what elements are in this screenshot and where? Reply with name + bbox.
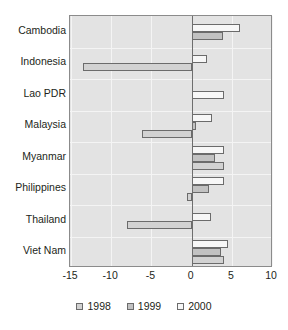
legend-swatch-icon — [76, 303, 83, 310]
gridline-x-neg15 — [71, 16, 72, 266]
legend-item-1998[interactable]: 1998 — [76, 300, 110, 312]
legend-label: 1998 — [87, 300, 110, 312]
bar — [192, 55, 207, 63]
legend-item-2000[interactable]: 2000 — [177, 300, 211, 312]
bar — [192, 177, 224, 185]
bar — [192, 114, 213, 122]
y-axis-label-malaysia: Malaysia — [0, 119, 66, 130]
bar — [192, 154, 215, 162]
legend-item-1999[interactable]: 1999 — [127, 300, 161, 312]
legend-swatch-icon — [177, 303, 184, 310]
x-axis-tick-label: -10 — [103, 269, 118, 282]
bar — [192, 213, 211, 221]
bar — [192, 185, 210, 193]
y-axis-label-cambodia: Cambodia — [0, 25, 66, 36]
y-axis-label-philippines: Philippines — [0, 182, 66, 193]
x-axis-tick-label: 5 — [228, 269, 234, 282]
category-separator — [70, 142, 271, 143]
chart-legend: 199819992000 — [0, 300, 288, 312]
y-axis-label-thailand: Thailand — [0, 214, 66, 225]
category-separator — [70, 48, 271, 49]
category-separator — [70, 174, 271, 175]
bar — [192, 24, 240, 32]
bar — [192, 91, 224, 99]
gridline-x-neg10 — [111, 16, 112, 266]
category-separator — [70, 205, 271, 206]
gridline-x-10 — [272, 16, 273, 266]
x-axis-labels: -15-10-50510 — [0, 269, 288, 285]
bar — [83, 63, 192, 71]
bar — [127, 221, 191, 229]
y-axis-label-indonesia: Indonesia — [0, 56, 66, 67]
category-separator — [70, 237, 271, 238]
bar — [192, 32, 223, 40]
bar — [192, 256, 224, 264]
legend-label: 2000 — [188, 300, 211, 312]
bar — [142, 130, 192, 138]
y-axis-labels: CambodiaIndonesiaLao PDRMalaysiaMyanmarP… — [0, 15, 66, 267]
bar — [192, 146, 224, 154]
bar — [192, 162, 224, 170]
y-axis-label-viet-nam: Viet Nam — [0, 245, 66, 256]
legend-label: 1999 — [138, 300, 161, 312]
bar-chart: CambodiaIndonesiaLao PDRMalaysiaMyanmarP… — [0, 0, 288, 330]
bar — [192, 240, 228, 248]
x-axis-tick-label: -15 — [62, 269, 77, 282]
plot-area — [69, 15, 272, 267]
category-separator — [70, 111, 271, 112]
y-axis-label-lao-pdr: Lao PDR — [0, 88, 66, 99]
category-separator — [70, 79, 271, 80]
y-axis-label-myanmar: Myanmar — [0, 151, 66, 162]
x-axis-tick-label: 10 — [265, 269, 277, 282]
bar — [192, 248, 221, 256]
x-axis-tick-label: -5 — [146, 269, 155, 282]
x-axis-tick-label: 0 — [188, 269, 194, 282]
legend-swatch-icon — [127, 303, 134, 310]
zero-axis-line — [192, 16, 193, 266]
gridline-x-5 — [232, 16, 233, 266]
